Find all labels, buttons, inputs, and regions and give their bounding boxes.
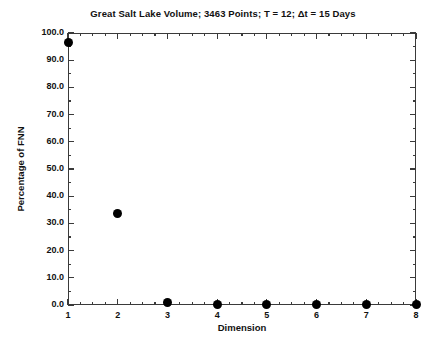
y-tick-label: 40.0 — [22, 190, 64, 200]
y-tick-label: 80.0 — [22, 81, 64, 91]
x-tick-minor-top — [328, 33, 329, 36]
x-tick-minor — [204, 302, 205, 305]
x-tick-major-top — [266, 33, 267, 39]
x-tick-minor-top — [241, 33, 242, 36]
y-tick-minor — [68, 100, 71, 101]
y-tick-label: 50.0 — [22, 163, 64, 173]
data-point — [64, 38, 73, 47]
x-tick-label: 8 — [401, 310, 431, 320]
y-tick-minor — [68, 264, 71, 265]
y-tick-major — [68, 32, 74, 33]
y-tick-major — [68, 168, 74, 169]
x-tick-minor-top — [80, 33, 81, 36]
x-tick-label: 1 — [53, 310, 83, 320]
y-tick-major — [68, 196, 74, 197]
x-tick-label: 7 — [351, 310, 381, 320]
y-tick-label: 20.0 — [22, 245, 64, 255]
x-tick-minor-top — [105, 33, 106, 36]
chart-title: Great Salt Lake Volume; 3463 Points; T =… — [0, 8, 446, 19]
data-point — [163, 298, 172, 307]
y-tick-minor — [68, 155, 71, 156]
x-tick-minor — [341, 302, 342, 305]
y-tick-minor — [68, 73, 71, 74]
data-point — [412, 300, 421, 309]
y-tick-major-right — [410, 87, 416, 88]
y-tick-label: 100.0 — [22, 27, 64, 37]
data-point — [262, 300, 271, 309]
y-tick-major-right — [410, 114, 416, 115]
x-tick-minor-top — [254, 33, 255, 36]
x-tick-minor — [130, 302, 131, 305]
y-tick-major-right — [410, 223, 416, 224]
x-tick-minor — [142, 302, 143, 305]
data-point — [213, 300, 222, 309]
y-tick-minor-right — [413, 100, 416, 101]
x-tick-minor-top — [229, 33, 230, 36]
x-tick-minor-top — [130, 33, 131, 36]
x-tick-major-top — [167, 33, 168, 39]
x-tick-minor — [192, 302, 193, 305]
x-tick-minor — [279, 302, 280, 305]
x-tick-major-top — [316, 33, 317, 39]
x-tick-major-top — [415, 33, 416, 39]
y-tick-minor — [68, 291, 71, 292]
x-tick-minor — [353, 302, 354, 305]
y-tick-label: 60.0 — [22, 136, 64, 146]
data-point — [312, 300, 321, 309]
y-tick-minor-right — [413, 46, 416, 47]
y-tick-major — [68, 304, 74, 305]
y-tick-major — [68, 114, 74, 115]
x-tick-minor — [105, 302, 106, 305]
data-point — [362, 300, 371, 309]
x-tick-label: 5 — [252, 310, 282, 320]
y-tick-label: 30.0 — [22, 217, 64, 227]
chart-figure: Great Salt Lake Volume; 3463 Points; T =… — [0, 0, 446, 350]
x-tick-minor — [291, 302, 292, 305]
x-tick-minor — [92, 302, 93, 305]
y-tick-minor-right — [413, 264, 416, 265]
x-tick-minor — [179, 302, 180, 305]
y-tick-minor — [68, 236, 71, 237]
x-tick-major — [117, 299, 118, 305]
x-tick-minor — [304, 302, 305, 305]
x-tick-major — [67, 299, 68, 305]
y-tick-minor-right — [413, 209, 416, 210]
x-tick-minor-top — [291, 33, 292, 36]
x-axis-label: Dimension — [68, 322, 416, 333]
x-tick-major-top — [217, 33, 218, 39]
y-tick-label: 10.0 — [22, 272, 64, 282]
y-tick-major — [68, 277, 74, 278]
y-tick-major-right — [410, 168, 416, 169]
x-tick-minor-top — [391, 33, 392, 36]
x-tick-minor-top — [142, 33, 143, 36]
x-tick-major-top — [366, 33, 367, 39]
x-tick-label: 2 — [103, 310, 133, 320]
y-tick-minor-right — [413, 128, 416, 129]
x-tick-label: 3 — [152, 310, 182, 320]
x-tick-minor — [254, 302, 255, 305]
y-tick-minor-right — [413, 73, 416, 74]
y-tick-minor-right — [413, 291, 416, 292]
x-tick-minor — [229, 302, 230, 305]
x-tick-minor-top — [378, 33, 379, 36]
x-tick-minor — [80, 302, 81, 305]
y-tick-major-right — [410, 196, 416, 197]
x-tick-minor-top — [179, 33, 180, 36]
x-tick-minor-top — [204, 33, 205, 36]
data-point — [113, 209, 122, 218]
y-tick-major — [68, 141, 74, 142]
y-tick-label: 0.0 — [22, 299, 64, 309]
y-tick-major-right — [410, 141, 416, 142]
x-tick-minor-top — [154, 33, 155, 36]
x-tick-minor-top — [304, 33, 305, 36]
x-tick-minor-top — [92, 33, 93, 36]
y-tick-major — [68, 60, 74, 61]
y-tick-minor — [68, 128, 71, 129]
y-tick-major — [68, 250, 74, 251]
y-tick-major-right — [410, 250, 416, 251]
y-tick-label: 90.0 — [22, 54, 64, 64]
y-tick-major-right — [410, 60, 416, 61]
y-tick-major-right — [410, 277, 416, 278]
x-tick-minor — [154, 302, 155, 305]
x-tick-minor — [378, 302, 379, 305]
